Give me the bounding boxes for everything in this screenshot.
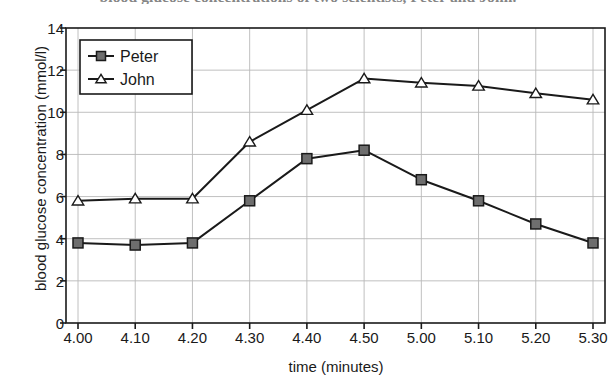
data-point-marker (359, 145, 369, 155)
data-point-marker (244, 137, 256, 146)
plot-area: PeterJohn (0, 0, 616, 390)
data-point-marker (302, 154, 312, 164)
data-point-marker (588, 238, 598, 248)
data-point-marker (531, 219, 541, 229)
series-line (78, 150, 593, 245)
legend-label: Peter (120, 48, 159, 65)
data-series-layer (72, 73, 599, 250)
chart-figure: blood glucose concentration (mmol/l) tim… (0, 0, 616, 390)
data-point-marker (97, 52, 106, 61)
series-peter (73, 145, 598, 250)
data-point-marker (187, 238, 197, 248)
data-point-marker (73, 238, 83, 248)
data-point-marker (416, 175, 426, 185)
chart-legend: PeterJohn (80, 40, 192, 94)
legend-label: John (120, 71, 155, 88)
data-point-marker (474, 196, 484, 206)
data-point-marker (301, 105, 313, 114)
series-line (78, 79, 593, 201)
data-point-marker (245, 196, 255, 206)
data-point-marker (130, 240, 140, 250)
